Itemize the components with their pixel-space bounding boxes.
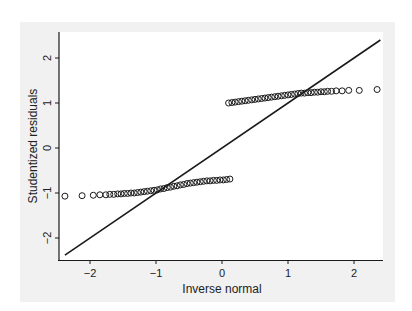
y-axis-title: Studentized residuals [26,89,40,204]
y-tick-label: 2 [41,55,53,61]
x-tick-label: −1 [150,267,163,279]
y-tick-label: −2 [41,232,53,245]
y-tick-label: −1 [41,187,53,200]
x-tick-label: 2 [351,267,357,279]
x-tick-label: 0 [219,267,225,279]
x-axis-title: Inverse normal [182,282,261,296]
qq-plot: −2−1012−2−1012 Inverse normal Studentize… [0,0,412,311]
x-tick-label: 1 [285,267,291,279]
y-tick-label: 1 [41,100,53,106]
y-tick-label: 0 [41,145,53,151]
x-tick-label: −2 [84,267,97,279]
